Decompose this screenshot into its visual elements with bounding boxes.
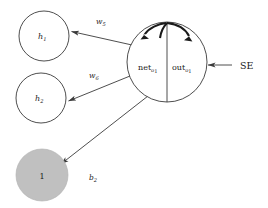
edge-label-b2: b2 [89, 173, 97, 183]
edge-b2-line [61, 96, 148, 164]
node-bias-label: 1 [40, 172, 45, 181]
node-o1[interactable]: neto1 outo1 [127, 22, 207, 102]
neural-network-diagram: h1 h2 1 neto1 outo1 [0, 0, 268, 208]
edge-w5-line [72, 32, 133, 46]
diagram-canvas: h1 h2 1 neto1 outo1 [0, 0, 268, 208]
node-bias[interactable]: 1 [16, 149, 68, 201]
external-input-label: SE [240, 60, 254, 71]
edge-label-w6: w6 [89, 71, 99, 81]
node-h2[interactable]: h2 [16, 73, 66, 123]
edge-w6-line [69, 76, 131, 101]
edge-label-w5: w5 [96, 17, 106, 27]
node-h1[interactable]: h1 [19, 11, 69, 61]
